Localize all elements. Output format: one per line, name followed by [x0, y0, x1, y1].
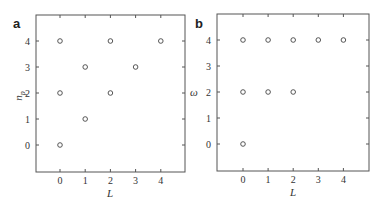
x-tick-label: 0 [58, 175, 63, 186]
panel-a: a 01234 01234 L np [12, 15, 185, 199]
data-point-circle [83, 117, 88, 122]
x-tick-label: 0 [241, 174, 246, 185]
data-points-a [58, 39, 163, 148]
panel-label-a: a [13, 16, 21, 31]
x-axis-label-b: L [289, 186, 296, 198]
data-points-b [241, 38, 346, 147]
x-tick-label: 4 [158, 175, 163, 186]
y-tick-label: 0 [25, 140, 30, 151]
y-tick-label: 2 [206, 87, 211, 98]
x-tick-label: 1 [83, 175, 88, 186]
x-tick-labels-b: 01234 [241, 174, 346, 185]
data-point-circle [291, 38, 296, 43]
data-point-circle [83, 65, 88, 70]
x-tick-label: 2 [108, 175, 113, 186]
data-point-circle [341, 38, 346, 43]
panel-label-b: b [195, 16, 203, 31]
y-tick-labels-b: 01234 [206, 35, 211, 150]
data-point-circle [291, 90, 296, 95]
x-tick-labels-a: 01234 [58, 175, 164, 186]
data-point-circle [108, 91, 113, 96]
x-axis-label-a: L [106, 187, 113, 199]
y-tick-label: 1 [25, 114, 30, 125]
y-tick-label: 1 [206, 113, 211, 124]
x-tick-label: 1 [266, 174, 271, 185]
data-point-circle [159, 39, 164, 44]
y-tick-label: 0 [206, 139, 211, 150]
y-tick-label: 3 [206, 61, 211, 72]
y-tick-label: 3 [25, 62, 30, 73]
data-point-circle [58, 39, 63, 44]
data-point-circle [266, 38, 271, 43]
svg-text:np: np [12, 91, 27, 101]
data-point-circle [58, 91, 63, 96]
data-point-circle [133, 65, 138, 70]
data-point-circle [266, 90, 271, 95]
y-tick-label: 4 [25, 36, 30, 47]
data-point-circle [108, 39, 113, 44]
x-tick-label: 3 [316, 174, 321, 185]
data-point-circle [241, 38, 246, 43]
data-point-circle [241, 90, 246, 95]
y-axis-label-b: ω [190, 86, 198, 98]
data-point-circle [58, 143, 63, 148]
x-tick-label: 4 [341, 174, 346, 185]
data-point-circle [316, 38, 321, 43]
data-point-circle [241, 142, 246, 147]
x-tick-label: 2 [291, 174, 296, 185]
panel-b: b 01234 01234 L ω [190, 14, 369, 198]
figure: a 01234 01234 L np b 01234 01234 L ω [0, 0, 382, 211]
y-axis-label-a: np [12, 91, 27, 101]
y-tick-label: 4 [206, 35, 211, 46]
x-tick-label: 3 [133, 175, 138, 186]
